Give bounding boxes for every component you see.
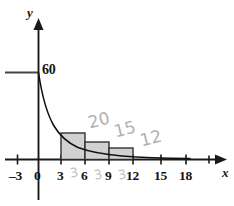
y-intercept-label-60: 60 <box>42 63 56 77</box>
x-axis-label: x <box>222 166 228 179</box>
y-axis-arrow-icon <box>34 18 44 30</box>
x-tick-label-6: 6 <box>81 169 88 183</box>
y-axis-label: y <box>27 6 33 19</box>
handwritten-height-20: 20 <box>86 110 111 132</box>
x-axis-arrow-icon <box>215 155 227 165</box>
x-tick-label-0: 0 <box>34 169 41 183</box>
handwritten-height-12: 12 <box>138 128 163 150</box>
handwritten-height-15: 15 <box>112 119 137 141</box>
x-tick-label-9: 9 <box>105 169 112 183</box>
x-tick-label--3: –3 <box>9 169 22 183</box>
x-tick-label-15: 15 <box>154 169 167 183</box>
x-tick-label-18: 18 <box>179 169 192 183</box>
x-tick-label-3: 3 <box>57 169 64 183</box>
riemann-rect-3 <box>109 148 133 160</box>
x-tick-label-12: 12 <box>126 169 139 183</box>
riemann-rect-1 <box>61 133 85 160</box>
figure-canvas: y x 60 –3 0 3 6 9 12 15 18 20 15 12 3 3 … <box>0 0 234 206</box>
